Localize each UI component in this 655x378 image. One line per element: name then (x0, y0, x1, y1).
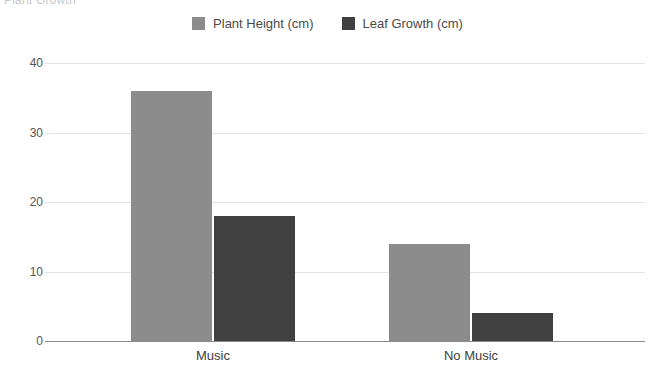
gridline (45, 63, 645, 64)
bar[interactable] (472, 313, 553, 341)
bar[interactable] (389, 244, 470, 341)
bar[interactable] (131, 91, 212, 341)
y-axis-tick-label: 10 (30, 265, 43, 279)
y-axis-tick-label: 20 (30, 195, 43, 209)
x-axis-line (45, 341, 645, 342)
y-axis-tick-label: 0 (36, 334, 43, 348)
plot-area: 010203040MusicNo Music (0, 0, 655, 378)
bar[interactable] (214, 216, 295, 341)
x-axis-category-label: No Music (444, 348, 498, 363)
bar-chart: Plant Growth Plant Height (cm) Leaf Grow… (0, 0, 655, 378)
y-axis-tick-label: 40 (30, 56, 43, 70)
y-axis-tick-label: 30 (30, 126, 43, 140)
x-axis-category-label: Music (196, 348, 230, 363)
